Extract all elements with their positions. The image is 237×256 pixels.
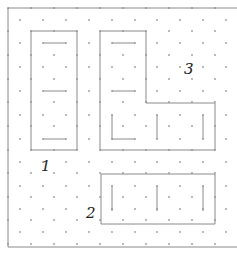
grid-dot: [156, 42, 158, 44]
grid-dot: [179, 66, 181, 68]
grid-dot: [179, 185, 181, 187]
grid-dot: [111, 19, 113, 21]
grid-dot: [191, 125, 193, 127]
grid-dot: [225, 19, 227, 21]
puzzle-diagram: 1 2 3: [0, 0, 237, 256]
grid-dot: [179, 231, 181, 233]
grid-dot: [214, 243, 216, 245]
grid-dot: [53, 196, 55, 198]
grid-dot: [88, 90, 90, 92]
grid-dot: [88, 66, 90, 68]
outline-lines: [8, 8, 237, 247]
grid-dot: [19, 19, 21, 21]
grid-dot: [202, 161, 204, 163]
grid-dot: [88, 138, 90, 140]
grid-dot: [179, 90, 181, 92]
grid-dot: [225, 114, 227, 116]
grid-dot: [42, 114, 44, 116]
grid-dot: [88, 231, 90, 233]
grid-dot: [156, 66, 158, 68]
grid-dot: [76, 219, 78, 221]
grid-dot: [19, 114, 21, 116]
grid-dot: [42, 66, 44, 68]
grid-dot: [42, 208, 44, 210]
grid-dot: [65, 208, 67, 210]
piece-3-label: 3: [184, 60, 194, 78]
grid-dot: [65, 185, 67, 187]
piece-2-outline: [101, 174, 215, 224]
grid-dot: [53, 101, 55, 103]
grid-dot: [179, 42, 181, 44]
grid-dot: [225, 138, 227, 140]
grid-dot: [30, 219, 32, 221]
grid-dot: [214, 54, 216, 56]
grid-dot: [65, 161, 67, 163]
piece-2-segments: [112, 186, 203, 211]
grid-dot: [225, 161, 227, 163]
grid-dot: [88, 19, 90, 21]
grid-dot: [53, 125, 55, 127]
grid-dot: [191, 219, 193, 221]
grid-dot: [191, 196, 193, 198]
grid-dot: [53, 54, 55, 56]
grid-dot: [53, 172, 55, 174]
grid-dot: [76, 172, 78, 174]
grid-dot: [134, 66, 136, 68]
piece-1-label: 1: [41, 157, 51, 175]
grid-dot: [191, 30, 193, 32]
grid-dot: [225, 66, 227, 68]
grid-dot: [168, 125, 170, 127]
grid-dot: [65, 114, 67, 116]
grid-dot: [111, 66, 113, 68]
grid-dot: [122, 219, 124, 221]
grid-dot: [19, 208, 21, 210]
grid-dot: [65, 231, 67, 233]
grid-dot: [191, 243, 193, 245]
grid-dot: [168, 30, 170, 32]
grid-dot: [111, 161, 113, 163]
grid-dot: [19, 138, 21, 140]
grid-dot: [145, 219, 147, 221]
grid-dot: [53, 219, 55, 221]
grid-dot: [156, 161, 158, 163]
grid-dot: [65, 66, 67, 68]
grid-dot: [202, 42, 204, 44]
grid-dot: [145, 196, 147, 198]
grid-dot: [168, 54, 170, 56]
grid-dot: [42, 19, 44, 21]
grid-dot: [214, 78, 216, 80]
grid-dot: [122, 243, 124, 245]
piece-1-segments: [43, 43, 66, 139]
grid-dot: [168, 196, 170, 198]
grid-dot: [168, 243, 170, 245]
piece-labels: 1 2 3: [41, 60, 194, 222]
grid-dot: [225, 231, 227, 233]
grid-dot: [134, 161, 136, 163]
grid-dot: [179, 114, 181, 116]
grid-dot: [122, 196, 124, 198]
grid-dot: [156, 90, 158, 92]
grid-dot: [145, 125, 147, 127]
grid-dot: [53, 243, 55, 245]
grid-dot: [88, 114, 90, 116]
grid-dot: [225, 90, 227, 92]
grid-dot: [19, 90, 21, 92]
grid-dot: [191, 54, 193, 56]
grid-dot: [30, 172, 32, 174]
grid-dot: [53, 78, 55, 80]
grid-dot: [42, 231, 44, 233]
grid-dot: [19, 161, 21, 163]
grid-dot: [122, 125, 124, 127]
grid-dot: [202, 231, 204, 233]
grid-dot: [145, 243, 147, 245]
grid-dot: [202, 19, 204, 21]
grid-dot: [225, 42, 227, 44]
grid-dot: [179, 161, 181, 163]
grid-dot: [111, 231, 113, 233]
grid-dot: [191, 78, 193, 80]
grid-dot: [88, 42, 90, 44]
grid-dot: [65, 19, 67, 21]
grid-dot: [168, 78, 170, 80]
grid-dot: [99, 243, 101, 245]
grid-dot: [19, 231, 21, 233]
